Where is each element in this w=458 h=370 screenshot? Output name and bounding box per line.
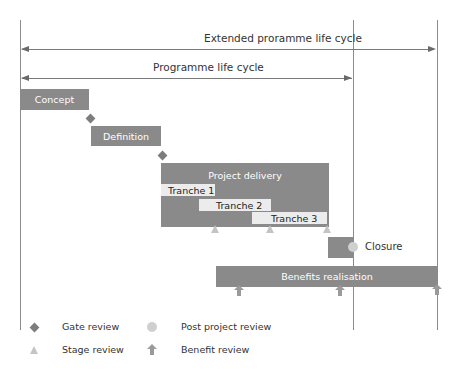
- programme-life-cycle-label: Programme life cycle: [153, 61, 264, 73]
- tranche-2-label: Tranche 2: [216, 200, 262, 211]
- programme-life-cycle-line: [22, 78, 352, 79]
- phase-concept-label: Concept: [35, 94, 74, 105]
- extended-life-cycle-label: Extended proramme life cycle: [204, 32, 362, 44]
- tranche-1-label: Tranche 1: [168, 185, 214, 196]
- stage-review-icon: [266, 225, 274, 233]
- tranche-1: Tranche 1: [161, 184, 215, 196]
- phase-definition-label: Definition: [103, 131, 149, 142]
- legend-stage-review-icon: [30, 346, 38, 354]
- phase-closure-label: Closure: [365, 241, 402, 252]
- extended-arrow-right-icon: [428, 46, 436, 52]
- legend-post-project-review-icon: [147, 322, 157, 332]
- tranche-2: Tranche 2: [199, 199, 271, 211]
- extended-arrow-left-icon: [21, 46, 29, 52]
- legend-benefit-review-label: Benefit review: [181, 344, 249, 355]
- gate-review-icon: [158, 151, 168, 161]
- post-project-review-icon: [348, 242, 358, 252]
- extended-life-cycle-line: [22, 49, 434, 50]
- stage-review-icon: [323, 225, 331, 233]
- benefit-review-icon: [432, 284, 442, 295]
- phase-project-delivery-label: Project delivery: [208, 170, 282, 181]
- gate-review-icon: [86, 114, 96, 124]
- phase-benefits-realisation: Benefits realisation: [216, 266, 438, 287]
- programme-start-line: [20, 20, 21, 330]
- stage-review-icon: [211, 225, 219, 233]
- phase-concept: Concept: [20, 89, 89, 110]
- legend-stage-review-label: Stage review: [62, 344, 124, 355]
- tranche-3: Tranche 3: [252, 212, 327, 224]
- legend-gate-review-label: Gate review: [62, 321, 119, 332]
- phase-benefits-realisation-label: Benefits realisation: [281, 271, 373, 282]
- legend-post-project-review-label: Post project review: [181, 321, 271, 332]
- legend-gate-review-icon: [30, 323, 40, 333]
- programme-arrow-left-icon: [21, 75, 29, 81]
- benefit-review-icon: [234, 285, 244, 296]
- programme-arrow-right-icon: [344, 75, 352, 81]
- legend-benefit-review-icon: [147, 344, 157, 355]
- benefit-review-icon: [335, 285, 345, 296]
- tranche-3-label: Tranche 3: [271, 213, 317, 224]
- phase-definition: Definition: [91, 126, 161, 146]
